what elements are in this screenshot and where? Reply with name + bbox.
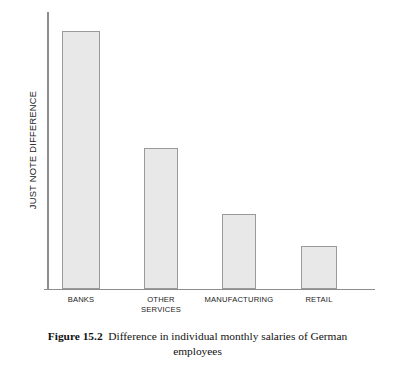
caption-text: Difference in individual monthly salarie…: [108, 330, 347, 357]
x-tick-label-banks: BANKS: [51, 295, 111, 305]
bar-other-services: [144, 148, 178, 289]
x-tick-label-retail: RETAIL: [289, 295, 349, 305]
bar-chart: JUST NOTE DIFFERENCE BANKS OTHER SERVICE…: [0, 0, 395, 322]
bar-banks: [62, 31, 100, 289]
bar-retail: [301, 246, 337, 289]
x-tick-label-manufacturing: MANUFACTURING: [196, 295, 282, 305]
bars-layer: [0, 0, 395, 289]
figure-number: Figure 15.2: [48, 330, 103, 342]
figure-container: JUST NOTE DIFFERENCE BANKS OTHER SERVICE…: [0, 0, 395, 367]
bar-manufacturing: [222, 214, 256, 289]
figure-caption: Figure 15.2 Difference in individual mon…: [22, 329, 373, 358]
x-tick-label-other-services: OTHER SERVICES: [131, 295, 191, 314]
